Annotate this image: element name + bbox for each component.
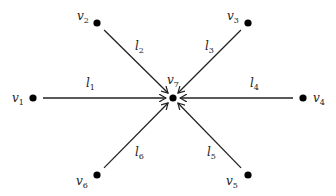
node-label-v6: v6 xyxy=(76,174,88,190)
node-v2 xyxy=(93,19,100,26)
edge-label-l4: l4 xyxy=(250,76,259,92)
node-label-v1: v1 xyxy=(12,91,24,107)
node-v5 xyxy=(244,171,251,178)
edge-label-l2: l2 xyxy=(135,39,144,55)
node-label-v3: v3 xyxy=(227,9,239,25)
edge-label-l3: l3 xyxy=(205,39,214,55)
node-v3 xyxy=(244,19,251,26)
node-label-v4: v4 xyxy=(313,91,325,107)
node-v1 xyxy=(29,94,36,101)
node-label-v2: v2 xyxy=(77,9,89,25)
edges-group xyxy=(43,30,293,168)
edge-l3-arrow xyxy=(178,30,241,93)
node-v6 xyxy=(93,171,100,178)
node-v7 xyxy=(169,94,176,101)
star-graph-diagram: l1l2l3l4l5l6v1v2v3v4v5v6v7 xyxy=(0,0,336,196)
nodes-group xyxy=(29,19,306,178)
edge-label-l6: l6 xyxy=(135,145,144,161)
labels-group: l1l2l3l4l5l6v1v2v3v4v5v6v7 xyxy=(12,9,325,190)
node-label-v7: v7 xyxy=(167,73,179,89)
edge-label-l5: l5 xyxy=(207,145,216,161)
edge-label-l1: l1 xyxy=(86,76,95,92)
node-label-v5: v5 xyxy=(226,174,238,190)
node-v4 xyxy=(299,94,306,101)
